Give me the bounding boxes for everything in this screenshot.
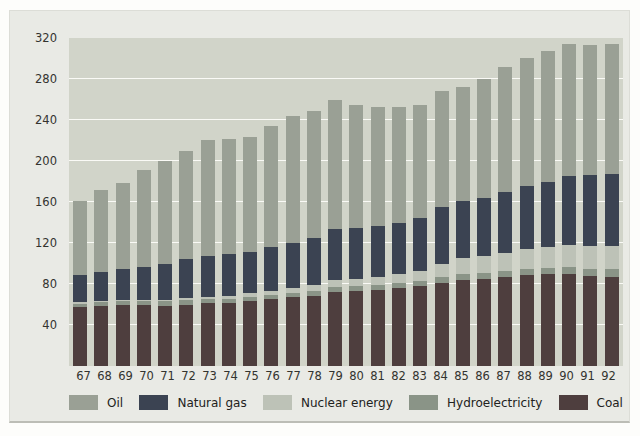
x-tick-92: 92	[598, 369, 619, 383]
y-tick-120: 120	[10, 236, 64, 250]
legend-item-coal: Coal	[559, 395, 623, 410]
segment-coal-1973	[201, 303, 215, 366]
segment-oil-1991	[583, 45, 597, 175]
segment-natural-gas-1987	[498, 192, 512, 254]
segment-coal-1988	[520, 275, 534, 366]
segment-nuclear-energy-1992	[605, 246, 619, 269]
legend-swatch-coal	[559, 395, 588, 410]
segment-coal-1990	[562, 274, 576, 366]
segment-natural-gas-1986	[477, 198, 491, 256]
segment-coal-1978	[307, 296, 321, 366]
segment-natural-gas-1984	[435, 207, 449, 263]
segment-coal-1987	[498, 277, 512, 366]
x-tick-83: 83	[409, 369, 430, 383]
x-tick-81: 81	[367, 369, 388, 383]
segment-coal-1967	[73, 307, 87, 366]
segment-oil-1992	[605, 44, 619, 174]
segment-nuclear-energy-1980	[349, 279, 363, 286]
segment-nuclear-energy-1983	[413, 271, 427, 281]
legend-item-natural-gas: Natural gas	[139, 395, 246, 410]
legend-label-oil: Oil	[107, 396, 123, 410]
bar-1987	[498, 38, 512, 366]
bar-1981	[371, 38, 385, 366]
x-tick-90: 90	[556, 369, 577, 383]
segment-oil-1971	[158, 161, 172, 264]
bar-1975	[243, 38, 257, 366]
segment-coal-1982	[392, 288, 406, 366]
segment-natural-gas-1979	[328, 229, 342, 280]
segment-natural-gas-1989	[541, 182, 555, 248]
segment-hydroelectricity-1992	[605, 269, 619, 277]
x-tick-73: 73	[199, 369, 220, 383]
bar-1991	[583, 38, 597, 366]
segment-nuclear-energy-1985	[456, 258, 470, 273]
segment-oil-1978	[307, 111, 321, 238]
x-tick-86: 86	[472, 369, 493, 383]
segment-natural-gas-1992	[605, 174, 619, 246]
legend-item-oil: Oil	[69, 395, 123, 410]
bar-1974	[222, 38, 236, 366]
segment-nuclear-energy-1989	[541, 247, 555, 268]
segment-nuclear-energy-1986	[477, 256, 491, 272]
legend: OilNatural gasNuclear energyHydroelectri…	[69, 395, 623, 410]
x-tick-79: 79	[325, 369, 346, 383]
bar-1990	[562, 38, 576, 366]
legend-swatch-nuclear-energy	[263, 395, 292, 410]
x-tick-70: 70	[136, 369, 157, 383]
segment-coal-1984	[435, 283, 449, 366]
legend-label-hydroelectricity: Hydroelectricity	[447, 396, 542, 410]
segment-oil-1987	[498, 67, 512, 192]
bar-1985	[456, 38, 470, 366]
segment-nuclear-energy-1990	[562, 245, 576, 267]
legend-swatch-oil	[69, 395, 98, 410]
x-tick-82: 82	[388, 369, 409, 383]
y-tick-80: 80	[10, 277, 64, 291]
segment-oil-1976	[264, 126, 278, 247]
segment-coal-1983	[413, 286, 427, 366]
segment-oil-1977	[286, 116, 300, 243]
bar-1978	[307, 38, 321, 366]
segment-coal-1979	[328, 292, 342, 366]
segment-oil-1968	[94, 190, 108, 272]
legend-swatch-hydroelectricity	[409, 395, 438, 410]
segment-natural-gas-1982	[392, 223, 406, 274]
legend-item-hydroelectricity: Hydroelectricity	[409, 395, 542, 410]
x-tick-72: 72	[178, 369, 199, 383]
x-tick-71: 71	[157, 369, 178, 383]
segment-natural-gas-1980	[349, 228, 363, 279]
bar-1970	[137, 38, 151, 366]
x-tick-89: 89	[535, 369, 556, 383]
segment-coal-1977	[286, 297, 300, 366]
legend-item-nuclear-energy: Nuclear energy	[263, 395, 393, 410]
segment-nuclear-energy-1982	[392, 274, 406, 283]
segment-oil-1974	[222, 139, 236, 255]
x-axis-tick-labels: 6768697071727374757677787980818283848586…	[69, 369, 623, 383]
bar-1972	[179, 38, 193, 366]
segment-natural-gas-1972	[179, 259, 193, 298]
segment-natural-gas-1967	[73, 275, 87, 303]
x-tick-88: 88	[514, 369, 535, 383]
segment-coal-1980	[349, 291, 363, 366]
segment-coal-1992	[605, 277, 619, 366]
segment-nuclear-energy-1984	[435, 264, 449, 277]
segment-coal-1974	[222, 303, 236, 366]
bar-1984	[435, 38, 449, 366]
segment-coal-1976	[264, 299, 278, 366]
segment-oil-1983	[413, 105, 427, 219]
segment-nuclear-energy-1979	[328, 280, 342, 287]
bar-1980	[349, 38, 363, 366]
segment-oil-1973	[201, 140, 215, 257]
segment-oil-1970	[137, 170, 151, 266]
segment-natural-gas-1976	[264, 247, 278, 291]
segment-natural-gas-1983	[413, 218, 427, 270]
segment-natural-gas-1973	[201, 256, 215, 297]
segment-oil-1975	[243, 137, 257, 252]
bar-1973	[201, 38, 215, 366]
segment-oil-1989	[541, 51, 555, 181]
y-tick-40: 40	[10, 318, 64, 332]
segment-natural-gas-1990	[562, 176, 576, 245]
x-tick-76: 76	[262, 369, 283, 383]
segment-oil-1982	[392, 107, 406, 223]
y-axis-tick-labels: 4080120160200240280320	[10, 11, 64, 421]
segment-oil-1980	[349, 105, 363, 228]
